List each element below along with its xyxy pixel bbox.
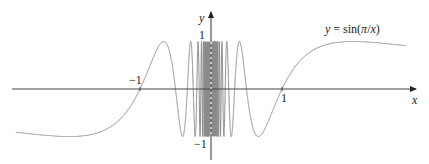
function-annotation: y = sin(π/x) [324, 22, 380, 36]
x-axis-label: x [411, 93, 418, 107]
x-tick-label-neg1: −1 [129, 73, 142, 87]
x-tick-label-1: 1 [281, 91, 287, 105]
y-axis-label: y [198, 11, 205, 25]
y-tick-label-neg1: −1 [194, 137, 207, 151]
y-tick-label-1: 1 [199, 28, 205, 42]
chart: x y −1 1 1 −1 y = sin(π/x) [0, 0, 429, 164]
